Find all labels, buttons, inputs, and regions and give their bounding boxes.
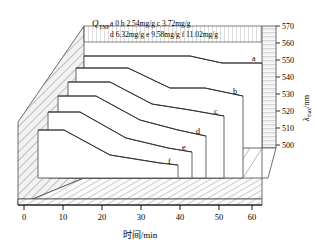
series-label-d: d: [196, 127, 200, 136]
x-tick-50: 50: [215, 212, 224, 222]
legend-title: Q: [92, 18, 99, 28]
y-axis: 570 560 550 540 530 520 510 500 λmax/nm: [276, 22, 312, 150]
waterfall-3d-plot: a b c d e f Q TNP a 0 b 2.54mg/g c 3.72m…: [0, 0, 315, 247]
y-axis-title-unit: /nm: [301, 94, 311, 108]
right-axis-wall: [262, 26, 276, 178]
series-label-c: c: [214, 107, 218, 116]
x-axis-title: 时间/min: [123, 229, 158, 240]
y-tick-540: 540: [282, 73, 294, 82]
svg-text:λmax/nm: λmax/nm: [301, 94, 312, 122]
y-tick-510: 510: [282, 124, 294, 133]
y-tick-560: 560: [282, 39, 294, 48]
y-axis-title: λmax/nm: [301, 94, 312, 122]
x-tick-60: 60: [248, 212, 257, 222]
y-axis-title-subscript: max: [306, 108, 312, 118]
legend-row-1: a 0 b 2.54mg/g c 3.72mg/g: [110, 19, 191, 28]
x-tick-40: 40: [176, 212, 185, 222]
series-label-e: e: [182, 143, 186, 152]
series-label-f: f: [168, 157, 171, 166]
x-tick-10: 10: [59, 212, 68, 222]
y-tick-570: 570: [282, 22, 294, 31]
chart-figure: a b c d e f Q TNP a 0 b 2.54mg/g c 3.72m…: [0, 0, 315, 247]
x-tick-20: 20: [98, 212, 107, 222]
x-axis: 0 10 20 30 40 50 60 时间/min: [18, 205, 262, 240]
y-tick-500: 500: [282, 141, 294, 150]
legend-title-subscript: TNP: [99, 24, 109, 30]
series-label-a: a: [252, 54, 256, 63]
series-label-b: b: [233, 87, 237, 96]
y-tick-550: 550: [282, 56, 294, 65]
y-tick-520: 520: [282, 107, 294, 116]
x-tick-0: 0: [22, 212, 26, 222]
y-tick-530: 530: [282, 90, 294, 99]
legend-row-2: d 6.32mg/g e 9.58mg/g f 11.02mg/g: [110, 30, 218, 39]
x-tick-30: 30: [137, 212, 146, 222]
